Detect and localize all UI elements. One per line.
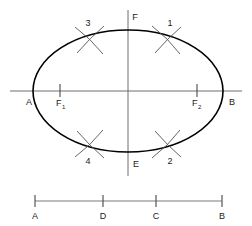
arc-mark-1 — [152, 26, 181, 54]
label-focus-left: F 1 — [56, 98, 66, 110]
arc-mark-3-stroke-b — [77, 26, 104, 53]
label-arc-mark-1: 1 — [167, 18, 172, 28]
label-arc-mark-2: 2 — [167, 156, 172, 166]
scale-label-d: D — [100, 211, 107, 221]
arc-mark-1-stroke-a — [152, 26, 180, 54]
ellipse-construction-figure: A B F E F 1 F 2 1 2 3 4 A D C B — [0, 0, 252, 226]
label-arc-mark-3: 3 — [85, 18, 90, 28]
label-focus-right: F 2 — [192, 98, 202, 110]
label-vertex-f: F — [132, 12, 138, 22]
arc-mark-3 — [75, 26, 104, 54]
label-focus-left-subscript: 1 — [62, 104, 66, 110]
scale-label-c: C — [153, 211, 160, 221]
label-focus-right-subscript: 2 — [198, 104, 202, 110]
figure-canvas: A B F E F 1 F 2 1 2 3 4 A D C B — [0, 0, 252, 226]
label-vertex-b: B — [229, 97, 235, 107]
scale-label-a: A — [32, 211, 38, 221]
label-vertex-e: E — [133, 159, 139, 169]
label-arc-mark-4: 4 — [85, 156, 90, 166]
scale-bar: A D C B — [32, 195, 225, 221]
scale-label-b: B — [219, 211, 225, 221]
label-vertex-a: A — [26, 97, 32, 107]
